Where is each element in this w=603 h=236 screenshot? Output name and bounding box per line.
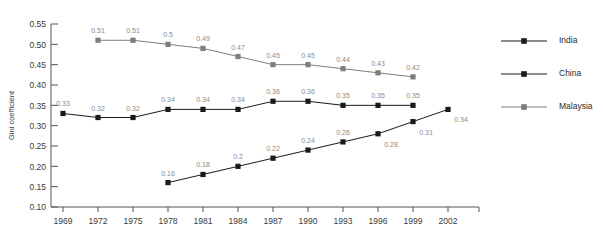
data-point-label: 0.28	[384, 141, 398, 148]
data-point-marker	[130, 38, 135, 43]
data-point-marker	[375, 103, 380, 108]
y-axis-title: Gini coefficient	[7, 90, 16, 140]
x-axis-tick-label: 1984	[229, 216, 248, 226]
data-point-label: 0.34	[196, 96, 210, 103]
y-axis-tick-label: 0.35	[29, 101, 46, 111]
data-point-label: 0.32	[91, 105, 105, 112]
data-point-label: 0.35	[406, 92, 420, 99]
x-axis-tick-label: 1972	[89, 216, 108, 226]
data-point-label: 0.34	[454, 116, 468, 123]
chart-canvas: Gini coefficient0.100.150.200.250.300.35…	[0, 0, 603, 236]
data-point-marker	[95, 38, 100, 43]
data-point-label: 0.45	[301, 52, 315, 59]
data-point-label: 0.5	[163, 31, 173, 38]
y-axis-tick-label: 0.20	[29, 162, 46, 172]
data-point-label: 0.51	[91, 27, 105, 34]
x-axis-tick-label: 1996	[369, 216, 388, 226]
data-point-label: 0.26	[336, 129, 350, 136]
data-point-marker	[165, 180, 170, 185]
data-point-marker	[235, 54, 240, 59]
data-point-marker	[270, 62, 275, 67]
legend-marker	[521, 38, 527, 44]
x-axis-tick-label: 1969	[54, 216, 73, 226]
series-malaysia: 0.510.510.50.490.470.450.450.440.430.42	[91, 27, 420, 79]
data-point-marker	[340, 139, 345, 144]
data-point-label: 0.24	[301, 137, 315, 144]
y-axis-tick-label: 0.50	[29, 40, 46, 50]
data-point-label: 0.33	[56, 100, 70, 107]
x-axis-tick-label: 1975	[124, 216, 143, 226]
legend-item-malaysia[interactable]: Malaysia	[501, 101, 593, 111]
x-axis-tick-label: 1993	[334, 216, 353, 226]
data-point-marker	[305, 99, 310, 104]
x-axis-tick-label: 1999	[404, 216, 423, 226]
legend-item-india[interactable]: India	[501, 35, 578, 45]
data-point-label: 0.44	[336, 56, 350, 63]
data-point-label: 0.34	[161, 96, 175, 103]
data-point-marker	[200, 107, 205, 112]
data-point-label: 0.16	[161, 170, 175, 177]
y-axis	[51, 24, 58, 207]
series-line	[98, 40, 413, 77]
data-point-label: 0.34	[231, 96, 245, 103]
y-axis-tick-label: 0.30	[29, 121, 46, 131]
legend: IndiaChinaMalaysia	[501, 35, 593, 111]
legend-label: Malaysia	[559, 101, 593, 111]
data-point-marker	[270, 156, 275, 161]
data-point-label: 0.36	[301, 88, 315, 95]
data-point-marker	[235, 107, 240, 112]
legend-label: India	[559, 35, 578, 45]
data-point-marker	[410, 74, 415, 79]
data-point-marker	[305, 147, 310, 152]
series-india: 0.330.320.320.340.340.340.360.360.350.35…	[56, 88, 420, 120]
data-point-label: 0.47	[231, 44, 245, 51]
data-point-marker	[95, 115, 100, 120]
y-axis-tick-label: 0.15	[29, 182, 46, 192]
data-point-label: 0.49	[196, 35, 210, 42]
y-axis-tick-label: 0.45	[29, 60, 46, 70]
data-point-marker	[200, 172, 205, 177]
data-point-label: 0.42	[406, 64, 420, 71]
data-point-marker	[270, 99, 275, 104]
x-axis-tick-label: 1978	[159, 216, 178, 226]
series-china: 0.160.180.20.220.240.260.280.310.34	[161, 107, 468, 185]
data-point-marker	[235, 164, 240, 169]
data-point-label: 0.45	[266, 52, 280, 59]
data-point-marker	[375, 131, 380, 136]
data-point-marker	[60, 111, 65, 116]
data-point-label: 0.32	[126, 105, 140, 112]
data-point-marker	[165, 42, 170, 47]
data-point-label: 0.18	[196, 161, 210, 168]
data-point-label: 0.51	[126, 27, 140, 34]
data-point-marker	[445, 107, 450, 112]
data-point-marker	[375, 70, 380, 75]
data-point-label: 0.35	[336, 92, 350, 99]
data-point-marker	[130, 115, 135, 120]
x-axis-tick-label: 1987	[264, 216, 283, 226]
legend-marker	[521, 71, 527, 77]
x-axis-tick-label: 1990	[299, 216, 318, 226]
x-axis-tick-label: 1981	[194, 216, 213, 226]
gini-coefficient-line-chart: Gini coefficient0.100.150.200.250.300.35…	[0, 0, 603, 236]
data-point-marker	[410, 103, 415, 108]
data-point-label: 0.2	[233, 153, 243, 160]
data-point-marker	[340, 66, 345, 71]
data-point-marker	[305, 62, 310, 67]
legend-label: China	[559, 68, 581, 78]
legend-marker	[521, 104, 527, 110]
data-point-marker	[200, 46, 205, 51]
legend-item-china[interactable]: China	[501, 68, 581, 78]
y-axis-tick-label: 0.55	[29, 19, 46, 29]
data-point-label: 0.43	[371, 60, 385, 67]
y-axis-tick-label: 0.25	[29, 141, 46, 151]
x-axis-tick-label: 2002	[439, 216, 458, 226]
data-point-marker	[165, 107, 170, 112]
data-point-label: 0.31	[419, 129, 433, 136]
x-axis: 1969197219751978198119841987199019931996…	[54, 207, 479, 226]
data-point-marker	[340, 103, 345, 108]
series-line	[168, 109, 448, 182]
data-point-marker	[410, 119, 415, 124]
data-point-label: 0.36	[266, 88, 280, 95]
y-axis-tick-label: 0.10	[29, 202, 46, 212]
data-point-label: 0.35	[371, 92, 385, 99]
